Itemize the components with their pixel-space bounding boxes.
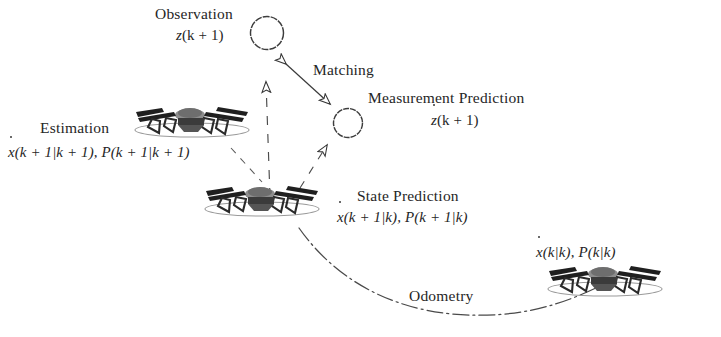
odometry-label: Odometry [409,288,473,304]
state-prediction-symbol-p-args: (k + 1|k) [414,209,467,225]
estimation-symbol-x: x [8,145,15,161]
observation-symbol-args: (k + 1) [182,27,224,43]
measurement-prediction-symbol: z(k + 1) [431,113,479,129]
state-prediction-symbol-p: P [405,209,414,225]
measurement-prediction-symbol-z: z [431,113,437,129]
prior-symbol-x: x [536,245,543,261]
prior-state-symbol: x(k|k), P(k|k) [536,245,616,261]
diagram-vector-layer [0,0,721,337]
observation-symbol: z(k + 1) [176,28,224,44]
prior-symbol-p: P [578,244,587,260]
state-prediction-symbol: x(k + 1|k), P(k + 1|k) [337,210,468,226]
matching-label: Matching [313,62,374,78]
prior-symbol-x-args: (k|k), [543,244,575,260]
estimation-to-prediction-link [231,148,262,182]
observation-update-arrow [266,82,270,197]
drone-state-prediction [205,186,319,216]
measurement-prediction-symbol-args: (k + 1) [437,112,479,128]
measurement-prediction-arrow [300,145,327,188]
estimation-symbol: x(k + 1|k + 1), P(k + 1|k + 1) [8,145,190,161]
estimation-symbol-p: P [101,144,110,160]
prior-symbol-p-args: (k|k) [588,244,616,260]
state-prediction-label: State Prediction [357,188,459,204]
estimation-symbol-x-args: (k + 1|k + 1), [15,144,98,160]
estimation-symbol-p-args: (k + 1|k + 1) [111,144,190,160]
measurement-prediction-label: Measurement Prediction [368,90,524,106]
state-prediction-symbol-x-args: (k + 1|k), [344,209,401,225]
observation-label: Observation [155,6,233,22]
drone-estimation [135,107,249,137]
diagram-canvas: Observation z(k + 1) Matching Measuremen… [0,0,721,337]
drone-prior-state [548,266,662,296]
measurement-prediction-circle [334,109,363,138]
state-prediction-symbol-x: x [337,210,344,226]
observation-circle [251,17,284,50]
estimation-label: Estimation [40,120,109,136]
